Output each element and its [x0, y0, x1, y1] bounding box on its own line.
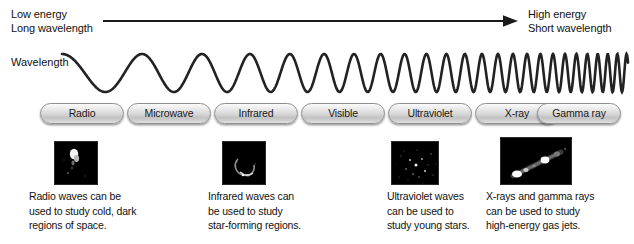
caption-line: star-forming regions.: [208, 218, 301, 233]
low-energy-line1: Low energy: [11, 8, 67, 20]
spectrum-band-ultraviolet[interactable]: Ultraviolet: [388, 103, 472, 124]
infrared-nebula-thumbnail: [222, 141, 266, 185]
spectrum-band-radio[interactable]: Radio: [40, 103, 124, 124]
radio-galaxy-thumbnail: [54, 141, 98, 185]
caption-line: can be used to study: [486, 204, 594, 219]
caption-line: be used to study: [208, 204, 301, 219]
caption-line: regions of space.: [29, 218, 136, 233]
spectrum-band-label: Infrared: [239, 108, 274, 119]
low-energy-label: Low energy Long wavelength: [11, 8, 93, 35]
spectrum-band-microwave[interactable]: Microwave: [127, 103, 211, 124]
caption-line: used to study cold, dark: [29, 204, 136, 219]
infrared-caption: Infrared waves canbe used to studystar-f…: [208, 189, 301, 233]
spectrum-band-row: RadioMicrowaveInfraredVisibleUltraviolet…: [0, 103, 634, 127]
caption-line: Ultraviolet waves: [387, 189, 470, 204]
short-wavelength-line2: Short wavelength: [528, 22, 611, 34]
spectrum-band-label: X-ray: [505, 108, 529, 119]
spectrum-band-label: Gamma ray: [552, 108, 606, 119]
caption-line: Radio waves can be: [29, 189, 136, 204]
caption-line: X-rays and gamma rays: [486, 189, 594, 204]
spectrum-band-label: Microwave: [145, 108, 194, 119]
energy-direction-arrow-icon: [103, 12, 519, 30]
high-energy-line1: High energy: [528, 8, 586, 20]
spectrum-band-label: Visible: [328, 108, 358, 119]
caption-line: study young stars.: [387, 218, 470, 233]
ultraviolet-starfield-thumbnail: [391, 141, 439, 185]
high-energy-label: High energy Short wavelength: [528, 8, 611, 35]
caption-line: can be used to: [387, 204, 470, 219]
xray-caption: X-rays and gamma rayscan be used to stud…: [486, 189, 594, 233]
spectrum-band-label: Ultraviolet: [407, 108, 452, 119]
caption-line: Infrared waves can: [208, 189, 301, 204]
xray-gas-jet-thumbnail: [500, 137, 572, 185]
radio-caption: Radio waves can beused to study cold, da…: [29, 189, 136, 233]
electromagnetic-wave-icon: [0, 44, 634, 102]
spectrum-band-gamma-ray[interactable]: Gamma ray: [537, 103, 621, 124]
ultraviolet-caption: Ultraviolet wavescan be used tostudy you…: [387, 189, 470, 233]
spectrum-band-label: Radio: [69, 108, 96, 119]
spectrum-band-infrared[interactable]: Infrared: [214, 103, 298, 124]
caption-line: high-energy gas jets.: [486, 218, 594, 233]
electromagnetic-spectrum-figure: Low energy Long wavelength High energy S…: [0, 0, 634, 244]
spectrum-band-visible[interactable]: Visible: [301, 103, 385, 124]
long-wavelength-line2: Long wavelength: [11, 22, 93, 34]
